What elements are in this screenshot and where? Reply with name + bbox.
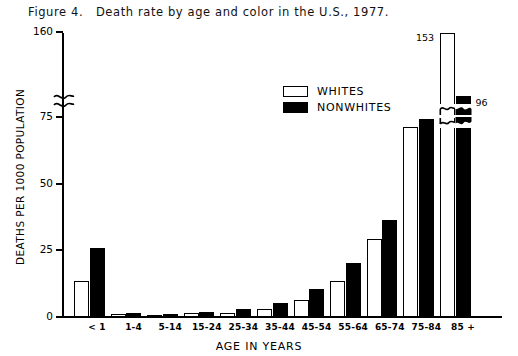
y-tick-mark [56, 249, 63, 251]
bar [220, 313, 235, 316]
bar [74, 281, 89, 316]
x-axis-label: AGE IN YEARS [0, 340, 518, 353]
bar [90, 248, 105, 316]
bar-value-label: 153 [416, 32, 434, 43]
bar [309, 289, 324, 316]
bar-broken-top [440, 33, 455, 104]
y-tick-label: 25 [40, 244, 53, 254]
bar-break-icon [439, 100, 456, 109]
legend-item-whites: WHITES [283, 84, 391, 99]
black-box-icon [283, 102, 308, 113]
legend-label-nonwhites: NONWHITES [317, 102, 391, 113]
y-tick-mark [56, 31, 63, 33]
y-tick-label: 50 [40, 178, 53, 188]
bar [199, 312, 214, 316]
y-tick-label: 160 [33, 26, 53, 36]
legend-label-whites: WHITES [317, 86, 364, 97]
bar [382, 220, 397, 316]
y-axis-line [62, 33, 64, 318]
bar [163, 314, 178, 316]
figure-title: Figure 4. Death rate by age and color in… [28, 5, 389, 19]
bar [184, 313, 199, 316]
bar [419, 119, 434, 316]
bar [236, 309, 251, 316]
bar [346, 263, 361, 316]
y-axis-break-icon [53, 91, 75, 111]
y-tick-label: 0 [46, 311, 53, 321]
bar [330, 281, 345, 316]
white-box-icon [283, 86, 308, 97]
bar [111, 314, 126, 316]
bar [257, 309, 272, 316]
legend-item-nonwhites: NONWHITES [283, 100, 391, 115]
legend: WHITES NONWHITES [283, 84, 391, 116]
bar-broken-body [456, 120, 471, 316]
y-axis-label: DEATHS PER 1000 POPULATION [14, 52, 30, 302]
plot-area: 0255075160 15396 [62, 33, 502, 318]
bar-value-label: 96 [476, 97, 488, 108]
bar [273, 303, 288, 316]
y-tick-mark [56, 183, 63, 185]
y-tick-mark [56, 316, 63, 318]
x-axis-category-label: 85 + [439, 322, 487, 332]
y-tick-mark [56, 116, 63, 118]
figure-chart: Figure 4. Death rate by age and color in… [0, 0, 518, 356]
bar [367, 239, 382, 316]
bar-broken-body [440, 120, 455, 316]
x-axis-line [62, 316, 502, 318]
bar-break-icon [455, 100, 472, 109]
bar [403, 127, 418, 316]
y-tick-label: 75 [40, 111, 53, 121]
bar [147, 315, 162, 317]
bar [126, 313, 141, 316]
bar [294, 300, 309, 316]
